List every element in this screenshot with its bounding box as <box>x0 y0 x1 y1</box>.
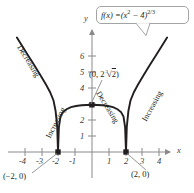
x-tick-label--3: -3 <box>36 157 43 166</box>
x-axis-label: x <box>177 146 181 155</box>
x-tick-label--1: -1 <box>69 157 76 166</box>
y-tick-label-5: 5 <box>80 68 84 77</box>
graph-figure: f(x) =(x2 − 4)2/3 y x -4 -3 -2 -1 1 2 3 … <box>0 0 194 193</box>
y-tick-label-6: 6 <box>80 52 84 61</box>
equation-exponent: 2/3 <box>147 9 155 15</box>
x-tick-label-4: 4 <box>157 157 161 166</box>
equation-callout-tail <box>136 23 150 35</box>
y-axis-label: y <box>84 14 88 23</box>
equation-base-rest: − 4) <box>130 10 147 20</box>
y-tick-label-1: 1 <box>80 132 84 141</box>
cube-root-icon: 3√2 <box>105 70 116 79</box>
point-label-vertex-suffix: ) <box>116 69 119 79</box>
x-tick-label-1: 1 <box>107 157 111 166</box>
y-tick-label-2: 2 <box>80 116 84 125</box>
x-tick-label--4: -4 <box>19 157 26 166</box>
x-tick-label--2: -2 <box>52 157 59 166</box>
radicand: 2 <box>112 69 116 79</box>
y-tick-label-4: 4 <box>80 84 84 93</box>
point-label-vertex-prefix: (0, 2 <box>89 69 105 79</box>
x-tick-label-2: 2 <box>124 157 128 166</box>
point-label-vertex: (0, 23√2) <box>89 70 119 79</box>
equation-lhs: f(x) = <box>101 10 121 20</box>
point-label-left-root: (−2, 0) <box>3 172 26 181</box>
equation-callout-label: f(x) =(x2 − 4)2/3 <box>101 9 155 19</box>
point-label-right-root: (2, 0) <box>131 170 149 179</box>
radical-index: 3 <box>106 69 109 74</box>
x-tick-label-3: 3 <box>140 157 144 166</box>
